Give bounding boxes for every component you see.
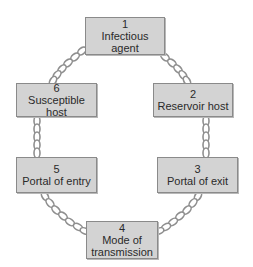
chain-of-infection-diagram: 1 Infectious agent 2 Reservoir host 6 Su…: [0, 0, 253, 267]
link-label-line1: Portal of entry: [22, 175, 90, 187]
chain-3-to-4: [153, 190, 203, 235]
link-label-line2: agent: [111, 42, 139, 54]
link-number: 5: [53, 163, 59, 175]
link-box-portal-of-entry: 5 Portal of entry: [16, 157, 97, 193]
link-label-line1: Portal of exit: [167, 175, 228, 187]
link-box-portal-of-exit: 3 Portal of exit: [157, 157, 238, 193]
link-box-reservoir-host: 2 Reservoir host: [153, 83, 233, 117]
link-label-line1: Reservoir host: [158, 100, 229, 112]
link-number: 3: [194, 163, 200, 175]
link-box-infectious-agent: 1 Infectious agent: [85, 17, 165, 55]
link-label-line1: Susceptible host: [17, 94, 96, 118]
chain-2-to-3: [203, 116, 209, 158]
link-number: 2: [190, 88, 196, 100]
link-box-mode-of-transmission: 4 Mode of transmission: [86, 221, 158, 259]
chain-5-to-4: [40, 190, 91, 235]
link-box-susceptible-host: 6 Susceptible host: [16, 83, 97, 117]
link-label-line2: transmission: [91, 246, 153, 258]
link-label-line1: Mode of: [102, 234, 142, 246]
chain-6-to-5: [34, 116, 40, 158]
link-number: 6: [53, 82, 59, 94]
link-number: 1: [122, 18, 128, 30]
link-label-line1: Infectious: [101, 30, 148, 42]
link-number: 4: [119, 222, 125, 234]
chain-1-to-6: [48, 45, 88, 86]
